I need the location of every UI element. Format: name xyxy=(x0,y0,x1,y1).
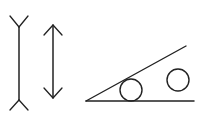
bottom-right-fin xyxy=(19,100,28,110)
angle-circles-figure xyxy=(86,46,194,101)
bottom-left-fin xyxy=(10,100,19,110)
double-arrow-figure xyxy=(44,25,62,98)
fins-out-line-figure xyxy=(10,16,28,110)
outer-circle xyxy=(167,69,189,91)
illusion-diagram xyxy=(0,0,205,122)
top-left-fin xyxy=(10,16,19,27)
slant-line xyxy=(86,46,186,101)
top-right-fin xyxy=(19,16,28,27)
inner-circle xyxy=(120,79,142,101)
